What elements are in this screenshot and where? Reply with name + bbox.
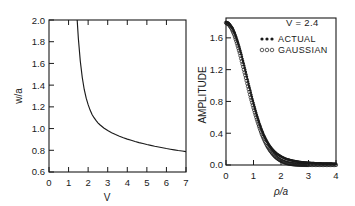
- right-xtick-label-0: 0: [223, 170, 228, 181]
- left-yaxis-ticks: [49, 20, 54, 172]
- chart-panel-left: 0.6 0.8 1.0 1.2 1.4 1.6 1.8 2.0 0 1 2 3 …: [0, 0, 196, 206]
- chart-panel-right: 0.0 0.4 0.8 1.2 1.6 0 1 2 3 4 ρ/a AMPLIT…: [196, 0, 355, 206]
- left-xaxis-title: V: [104, 192, 111, 203]
- legend-marker-gaussian: [260, 48, 274, 52]
- left-data-curve: [77, 20, 186, 152]
- right-ytick-label-4: 1.6: [210, 32, 223, 43]
- left-xtick-label-6: 6: [164, 177, 169, 188]
- left-xtick-label-7: 7: [183, 177, 188, 188]
- left-ytick-label-3: 1.2: [32, 101, 45, 112]
- left-plot-frame: [49, 20, 186, 172]
- right-xtick-label-3: 3: [306, 170, 311, 181]
- left-xtick-label-3: 3: [105, 177, 110, 188]
- left-xtick-label-2: 2: [85, 177, 90, 188]
- left-xtick-label-4: 4: [125, 177, 130, 188]
- figure-container: 0.6 0.8 1.0 1.2 1.4 1.6 1.8 2.0 0 1 2 3 …: [0, 0, 355, 206]
- left-ytick-label-7: 2.0: [32, 15, 45, 26]
- right-ytick-label-3: 1.2: [210, 64, 223, 75]
- right-xtick-label-1: 1: [251, 170, 256, 181]
- right-plot-svg: 0.0 0.4 0.8 1.2 1.6 0 1 2 3 4 ρ/a AMPLIT…: [196, 0, 355, 206]
- left-xtick-label-5: 5: [144, 177, 149, 188]
- left-ytick-label-6: 1.8: [32, 36, 45, 47]
- right-yaxis-ticks: [226, 38, 231, 165]
- right-legend: ACTUAL GAUSSIAN: [260, 34, 328, 55]
- right-xtick-label-4: 4: [333, 170, 338, 181]
- left-yaxis-title: w/a: [13, 88, 24, 105]
- left-plot-svg: 0.6 0.8 1.0 1.2 1.4 1.6 1.8 2.0 0 1 2 3 …: [0, 0, 196, 206]
- left-xaxis-ticks: [49, 167, 186, 172]
- left-ytick-label-4: 1.4: [32, 80, 45, 91]
- left-xaxis-top-ticks: [69, 20, 167, 25]
- left-xtick-label-1: 1: [66, 177, 71, 188]
- right-ytick-label-1: 0.4: [210, 128, 223, 139]
- right-ytick-label-2: 0.8: [210, 96, 223, 107]
- legend-label-actual: ACTUAL: [278, 34, 316, 44]
- right-annotation-v: V = 2.4: [286, 17, 318, 28]
- right-xtick-label-2: 2: [278, 170, 283, 181]
- legend-label-gaussian: GAUSSIAN: [278, 45, 328, 55]
- left-ytick-label-0: 0.6: [32, 166, 45, 177]
- left-ytick-label-1: 0.8: [32, 145, 45, 156]
- right-ytick-label-0: 0.0: [210, 159, 223, 170]
- right-xaxis-title: ρ/a: [273, 186, 289, 197]
- left-ytick-label-2: 1.0: [32, 123, 45, 134]
- left-xtick-label-0: 0: [46, 177, 51, 188]
- legend-marker-actual: [260, 37, 273, 40]
- left-ytick-label-5: 1.6: [32, 58, 45, 69]
- right-yaxis-title: AMPLITUDE: [197, 66, 208, 124]
